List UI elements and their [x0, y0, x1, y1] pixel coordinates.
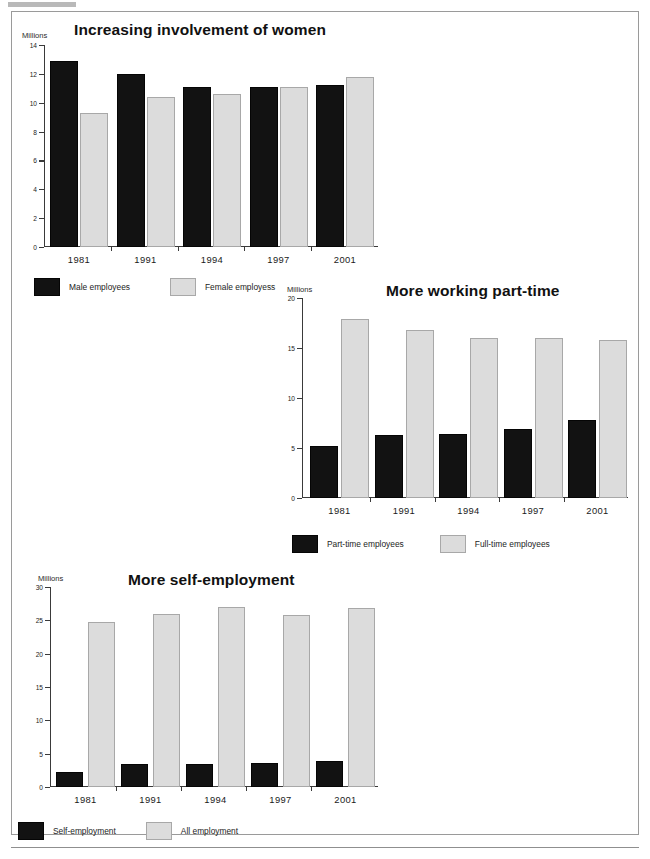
- x-axis-category-label: 1997: [267, 254, 289, 265]
- y-axis-tick: [39, 74, 44, 75]
- x-axis-category-label: 1991: [134, 254, 156, 265]
- bar: [348, 608, 375, 787]
- x-axis-category-label: 1994: [204, 794, 226, 805]
- y-axis-tick-label: 20: [36, 650, 43, 657]
- y-axis-tick-label: 8: [33, 128, 37, 135]
- x-axis-category-label: 1997: [522, 505, 544, 516]
- y-axis-line: [302, 298, 303, 498]
- y-axis-tick-label: 0: [39, 784, 43, 791]
- y-axis-line: [50, 587, 51, 787]
- bar: [568, 420, 596, 498]
- y-axis-unit-label: Millions: [22, 31, 47, 40]
- x-axis-tick: [435, 498, 436, 502]
- legend-item: Full-time employees: [440, 535, 550, 553]
- legend-swatch-light: [146, 822, 172, 840]
- y-axis-tick: [45, 654, 50, 655]
- x-axis-category-label: 1981: [68, 254, 90, 265]
- legend-item: Part-time employees: [292, 535, 404, 553]
- bar: [280, 87, 308, 247]
- x-axis-tick: [181, 787, 182, 791]
- x-axis-category-label: 2001: [334, 254, 356, 265]
- y-axis-tick: [297, 398, 302, 399]
- plot-area-3: 05101520253019811991199419972001: [50, 587, 378, 787]
- y-axis-tick-label: 30: [36, 584, 43, 591]
- bar: [470, 338, 498, 498]
- x-axis-tick: [564, 498, 565, 502]
- y-axis-tick: [39, 103, 44, 104]
- x-axis-tick: [116, 787, 117, 791]
- y-axis-unit-label: Millions: [287, 285, 312, 294]
- y-axis-line: [44, 45, 45, 247]
- y-axis-tick: [39, 218, 44, 219]
- y-axis-tick: [297, 448, 302, 449]
- x-axis-tick: [311, 247, 312, 251]
- y-axis-tick-label: 10: [30, 99, 37, 106]
- x-axis-category-label: 1997: [269, 794, 291, 805]
- bar: [504, 429, 532, 498]
- x-axis-tick: [244, 247, 245, 251]
- bar: [183, 87, 211, 247]
- legend-item: Male employees: [34, 278, 130, 296]
- y-axis-tick: [39, 160, 44, 161]
- legend-label: Part-time employees: [327, 539, 404, 549]
- legend-swatch-dark: [18, 822, 44, 840]
- chart-legend-1: Male employees Female employess: [34, 278, 275, 296]
- y-axis-tick: [39, 189, 44, 190]
- bar: [121, 764, 148, 787]
- bar: [147, 97, 175, 247]
- bar: [186, 764, 213, 787]
- legend-label: Self-employment: [53, 826, 116, 836]
- bar: [346, 77, 374, 247]
- bar: [153, 614, 180, 787]
- bar: [283, 615, 310, 787]
- bar: [251, 763, 278, 787]
- bar: [88, 622, 115, 787]
- x-axis-tick: [499, 498, 500, 502]
- y-axis-tick: [39, 247, 44, 248]
- y-axis-tick: [45, 787, 50, 788]
- y-axis-tick: [45, 720, 50, 721]
- y-axis-tick: [45, 620, 50, 621]
- legend-item: Self-employment: [18, 822, 116, 840]
- bar: [117, 74, 145, 247]
- legend-swatch-dark: [34, 278, 60, 296]
- x-axis-category-label: 2001: [334, 794, 356, 805]
- y-axis-tick-label: 4: [33, 186, 37, 193]
- y-axis-tick-label: 6: [33, 157, 37, 164]
- bar: [310, 446, 338, 498]
- legend-swatch-light: [440, 535, 466, 553]
- y-axis-tick-label: 12: [30, 70, 37, 77]
- y-axis-tick-label: 14: [30, 42, 37, 49]
- chart-more-working-part-time: More working part-time Millions 05101520…: [270, 280, 650, 570]
- y-axis-tick-label: 15: [288, 345, 295, 352]
- legend-swatch-light: [170, 278, 196, 296]
- bar: [341, 319, 369, 498]
- chart-legend-2: Part-time employees Full-time employees: [292, 535, 550, 553]
- x-axis-category-label: 1994: [201, 254, 223, 265]
- y-axis-tick: [39, 132, 44, 133]
- bar: [213, 94, 241, 247]
- x-axis-tick: [111, 247, 112, 251]
- x-axis-category-label: 1981: [74, 794, 96, 805]
- page-canvas: Increasing involvement of women Millions…: [0, 0, 650, 859]
- y-axis-tick-label: 0: [33, 244, 37, 251]
- y-axis-tick-label: 5: [39, 750, 43, 757]
- legend-label: Male employees: [69, 282, 130, 292]
- bar: [80, 113, 108, 247]
- y-axis-tick-label: 15: [36, 684, 43, 691]
- y-axis-tick-label: 20: [288, 295, 295, 302]
- bar: [56, 772, 83, 787]
- legend-label: All employment: [181, 826, 238, 836]
- y-axis-tick: [45, 587, 50, 588]
- bar: [50, 61, 78, 247]
- y-axis-tick-label: 10: [288, 395, 295, 402]
- bar: [375, 435, 403, 498]
- bar: [316, 761, 343, 787]
- plot-area-1: 0246810121419811991199419972001: [44, 45, 378, 247]
- y-axis-tick-label: 2: [33, 215, 37, 222]
- bar: [439, 434, 467, 498]
- y-axis-tick: [45, 754, 50, 755]
- chart-increasing-involvement-of-women: Increasing involvement of women Millions…: [0, 0, 420, 310]
- plot-area-2: 0510152019811991199419972001: [302, 298, 628, 498]
- y-axis-tick: [45, 687, 50, 688]
